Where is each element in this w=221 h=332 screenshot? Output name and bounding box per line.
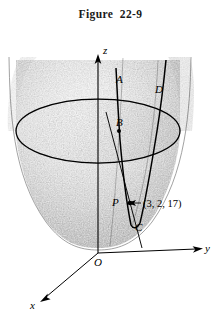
point-marker-B	[117, 129, 121, 133]
point-label-b: B	[116, 117, 123, 128]
axis-label-x: x	[30, 300, 35, 311]
point-coordinates-label: (3, 2, 17)	[143, 199, 182, 210]
axis-label-origin: O	[94, 257, 102, 268]
figure-drawing	[0, 0, 221, 332]
axis-label-z: z	[103, 45, 107, 56]
point-label-c: C	[135, 222, 142, 233]
point-label-p: P	[112, 197, 119, 208]
x-axis	[40, 253, 98, 302]
figure-container: Figure 22-9	[0, 0, 221, 332]
y-axis	[98, 246, 203, 253]
point-label-a: A	[116, 74, 123, 85]
axis-label-y: y	[205, 243, 210, 254]
point-label-d: D	[155, 84, 163, 95]
